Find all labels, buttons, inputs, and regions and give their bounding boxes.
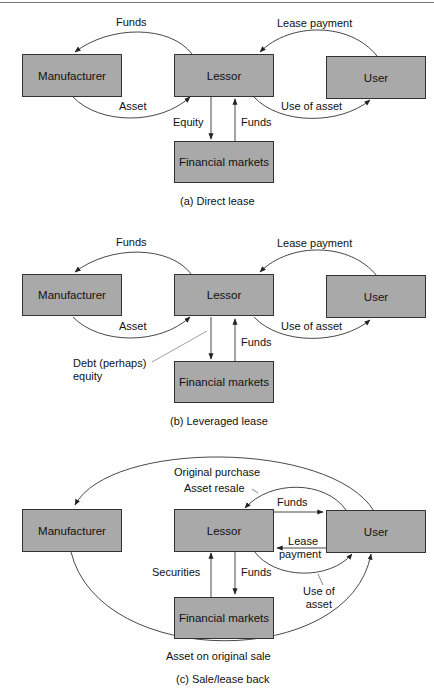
node-label: Financial markets [179,376,269,388]
flow-label-c-lease-line1: Lease [285,535,321,548]
flow-label-c-asset-on-original-sale: Asset on original sale [166,650,271,663]
flow-label-b-debt-line1: Debt (perhaps) [73,357,146,370]
flow-label-a-funds-markets: Funds [241,116,272,129]
caption-a: (a) Direct lease [180,195,255,207]
flow-label-a-funds-manufacturer: Funds [116,16,147,29]
flow-label-b-funds-markets: Funds [241,336,272,349]
node-b-lessor: Lessor [174,274,274,316]
flow-label-c-funds-markets: Funds [241,566,272,579]
flow-label-b-funds-manufacturer: Funds [116,236,147,249]
node-label: Lessor [207,525,242,537]
flow-label-c-lease-payment: Lease payment [285,535,321,561]
flow-label-c-use-line1: Use of [303,585,335,598]
node-b-user: User [326,275,426,318]
flow-label-b-debt: Debt (perhaps) equity [73,357,146,383]
flow-label-c-original-purchase: Original purchase [174,466,260,479]
node-label: Financial markets [179,156,269,168]
node-a-lessor: Lessor [174,54,274,97]
leader-b-debt [152,331,207,362]
node-c-manufacturer: Manufacturer [22,509,122,552]
node-a-manufacturer: Manufacturer [22,54,122,97]
flow-label-b-use-of-asset: Use of asset [281,320,342,333]
caption-b: (b) Leveraged lease [170,415,268,427]
node-label: User [364,72,388,84]
node-c-user: User [326,510,426,553]
flow-label-a-lease-payment: Lease payment [277,17,352,30]
flow-label-c-lease-line2: payment [279,548,321,561]
flow-label-c-funds-user: Funds [277,496,308,509]
node-a-user: User [326,56,426,99]
node-a-financial-markets: Financial markets [174,141,274,183]
node-label: Manufacturer [38,289,106,301]
node-label: Lessor [207,289,242,301]
arrow-b-funds-to-manufacturer [75,252,192,275]
node-label: User [364,291,388,303]
node-b-financial-markets: Financial markets [174,361,274,403]
node-label: Lessor [207,70,242,82]
leader-c-use-of-asset [318,574,323,585]
node-label: Manufacturer [38,525,106,537]
flow-label-b-debt-line2: equity [73,370,146,383]
node-c-financial-markets: Financial markets [174,597,274,639]
flow-label-b-lease-payment: Lease payment [277,237,352,250]
node-c-lessor: Lessor [174,509,274,552]
flow-label-a-asset: Asset [119,100,147,113]
arrow-a-funds-to-manufacturer [75,32,192,54]
node-label: User [364,526,388,538]
leader-c-asset-resale [252,489,258,493]
flow-label-c-securities: Securities [152,566,200,579]
flow-label-c-use-line2: asset [303,598,335,611]
node-b-manufacturer: Manufacturer [22,274,122,316]
flow-label-a-use-of-asset: Use of asset [281,100,342,113]
node-label: Manufacturer [38,70,106,82]
arrow-b-lease-payment-to-lessor [260,250,377,276]
arrow-a-lease-payment-to-lessor [260,30,377,56]
arrows-layer [0,0,434,689]
flow-label-c-asset-resale: Asset resale [184,482,245,495]
flow-label-a-equity: Equity [173,116,204,129]
node-label: Financial markets [179,612,269,624]
caption-c: (c) Sale/lease back [176,673,270,685]
flow-label-c-use-of-asset: Use of asset [303,585,335,611]
flow-label-b-asset: Asset [119,320,147,333]
